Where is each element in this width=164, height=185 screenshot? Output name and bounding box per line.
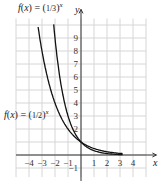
x-tick-label: 3: [118, 158, 123, 168]
chart-canvas: −4−3−2−11234−123456789: [0, 0, 164, 185]
label-one-half: f(x) = (1/2)x: [4, 108, 49, 120]
x-tick-label: −4: [24, 158, 34, 168]
x-tick-label: −2: [50, 158, 60, 168]
y-tick-label: −1: [68, 163, 78, 173]
x-axis-label: x: [153, 157, 157, 168]
label-one-third: f(x) = (1/3)x: [18, 1, 63, 13]
x-tick-label: 4: [131, 158, 136, 168]
y-tick-label: 8: [74, 46, 79, 56]
y-tick-label: 3: [74, 111, 79, 121]
y-tick-label: 4: [74, 98, 79, 108]
y-tick-label: 5: [74, 85, 79, 95]
y-tick-label: 6: [74, 72, 79, 82]
x-tick-label: 1: [92, 158, 97, 168]
x-tick-label: −3: [37, 158, 47, 168]
y-tick-label: 7: [74, 59, 79, 69]
y-axis-label: y: [75, 4, 79, 15]
x-tick-label: 2: [105, 158, 110, 168]
y-tick-label: 9: [74, 33, 79, 43]
